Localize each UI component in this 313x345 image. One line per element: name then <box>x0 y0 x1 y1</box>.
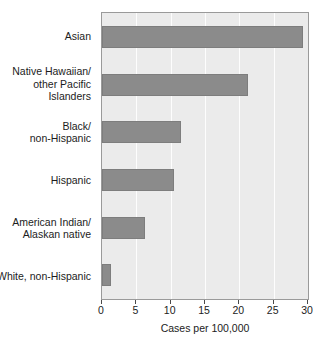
bar[interactable] <box>102 26 303 48</box>
category-label-line: Islanders <box>48 90 91 103</box>
category-label-line: Asian <box>65 30 91 43</box>
x-tick-label: 30 <box>301 304 313 317</box>
x-tick-label: 20 <box>232 304 244 317</box>
category-axis: Asian Native Hawaiian/ other Pacific Isl… <box>0 12 96 300</box>
category-label-line: non-Hispanic <box>30 132 91 145</box>
x-axis-title: Cases per 100,000 <box>101 322 309 334</box>
x-tick-label: 15 <box>198 304 210 317</box>
category-label-line: White, non-Hispanic <box>0 270 91 283</box>
bar-row <box>102 108 308 156</box>
x-tick-label: 0 <box>98 304 104 317</box>
x-tick-label: 25 <box>267 304 279 317</box>
bar-row <box>102 13 308 61</box>
bar-chart-figure: Asian Native Hawaiian/ other Pacific Isl… <box>0 0 313 345</box>
category-label-line: Black/ <box>62 120 91 133</box>
bar-row <box>102 251 308 299</box>
bars-layer <box>102 13 308 299</box>
category-label-line: American Indian/ <box>12 216 91 229</box>
category-label-line: Native Hawaiian/ <box>12 65 91 78</box>
category-label-native-hawaiian: Native Hawaiian/ other Pacific Islanders <box>0 60 96 108</box>
x-tick-label: 10 <box>164 304 176 317</box>
category-label-line: Alaskan native <box>23 228 91 241</box>
x-tick-label: 5 <box>132 304 138 317</box>
category-label-line: other Pacific <box>33 78 91 91</box>
category-label-line: Hispanic <box>51 174 91 187</box>
category-label-hispanic: Hispanic <box>0 156 96 204</box>
bar-row <box>102 156 308 204</box>
bar[interactable] <box>102 169 174 191</box>
bar[interactable] <box>102 264 111 286</box>
bar-row <box>102 61 308 109</box>
category-label-black: Black/ non-Hispanic <box>0 108 96 156</box>
category-label-white: White, non-Hispanic <box>0 252 96 300</box>
plot-area <box>101 12 309 300</box>
bar[interactable] <box>102 121 181 143</box>
bar[interactable] <box>102 217 145 239</box>
category-label-asian: Asian <box>0 12 96 60</box>
x-axis: 051015202530 <box>101 300 309 320</box>
bar[interactable] <box>102 74 248 96</box>
bar-row <box>102 204 308 252</box>
category-label-american-indian: American Indian/ Alaskan native <box>0 204 96 252</box>
